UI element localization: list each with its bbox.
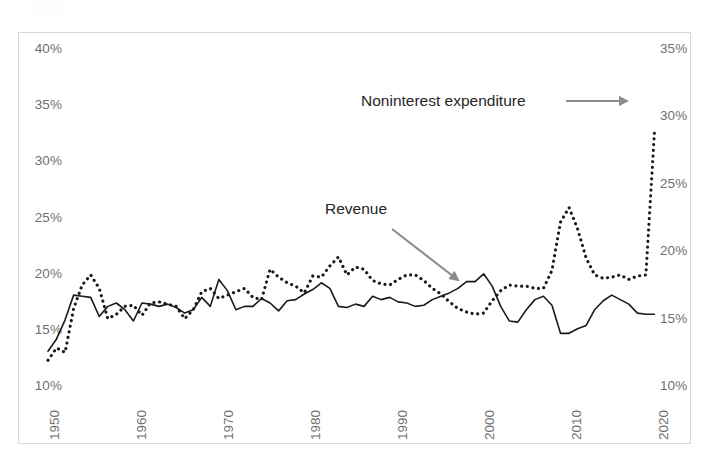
x-axis-tick-1980: 1980 xyxy=(308,410,323,440)
x-axis-tick-1990: 1990 xyxy=(395,410,410,440)
x-axis-tick-2010: 2010 xyxy=(569,410,584,440)
y-axis-right-tick-35: 35% xyxy=(660,41,704,56)
x-axis-tick-1970: 1970 xyxy=(221,410,236,440)
y-axis-left-tick-40: 40% xyxy=(18,41,62,56)
y-axis-right-tick-20: 20% xyxy=(660,243,704,258)
y-axis-left-tick-10: 10% xyxy=(18,378,62,393)
chart-container: 40% 35% 30% 25% 20% 15% 10% 35% 30% 25% … xyxy=(0,0,709,453)
y-axis-left-tick-35: 35% xyxy=(18,97,62,112)
x-axis-tick-1950: 1950 xyxy=(47,410,62,440)
y-axis-left-tick-30: 30% xyxy=(18,153,62,168)
y-axis-right-tick-10: 10% xyxy=(660,378,704,393)
y-axis-right-tick-30: 30% xyxy=(660,108,704,123)
y-axis-left-tick-20: 20% xyxy=(18,266,62,281)
annotation-revenue-label: Revenue xyxy=(325,200,387,218)
chart-plot-frame xyxy=(18,32,691,444)
y-axis-left-tick-15: 15% xyxy=(18,322,62,337)
y-axis-right-tick-25: 25% xyxy=(660,176,704,191)
y-axis-left-tick-25: 25% xyxy=(18,210,62,225)
scan-artifact xyxy=(28,1,68,12)
y-axis-right-tick-15: 15% xyxy=(660,311,704,326)
x-axis-tick-1960: 1960 xyxy=(134,410,149,440)
x-axis-tick-2000: 2000 xyxy=(482,410,497,440)
x-axis-tick-2020: 2020 xyxy=(656,410,671,440)
annotation-noninterest-expenditure-label: Noninterest expenditure xyxy=(361,92,526,110)
